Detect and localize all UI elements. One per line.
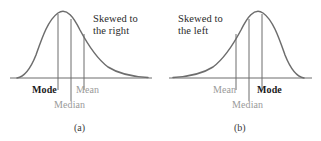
- label-median-b: Median: [232, 99, 263, 110]
- label-mode-b: Mode: [257, 84, 282, 95]
- annotation-skewed-right: Skewed to the right: [93, 13, 138, 37]
- annotation-line-2: the left: [178, 25, 223, 37]
- annotation-line-1: Skewed to: [178, 13, 223, 25]
- panel-right-skewed: Skewed to the right Mode Mean Median (a): [0, 0, 161, 141]
- label-mode-a: Mode: [32, 84, 57, 95]
- annotation-line-1: Skewed to: [93, 13, 138, 25]
- caption-a: (a): [74, 122, 85, 133]
- skewness-figure: Skewed to the right Mode Mean Median (a)…: [0, 0, 321, 141]
- annotation-skewed-left: Skewed to the left: [178, 13, 223, 37]
- label-mean-b: Mean: [213, 84, 236, 95]
- annotation-line-2: the right: [93, 25, 138, 37]
- panel-left-skewed: Skewed to the left Mean Mode Median (b): [160, 0, 321, 141]
- label-mean-a: Mean: [76, 84, 99, 95]
- caption-b: (b): [234, 122, 246, 133]
- label-median-a: Median: [54, 99, 85, 110]
